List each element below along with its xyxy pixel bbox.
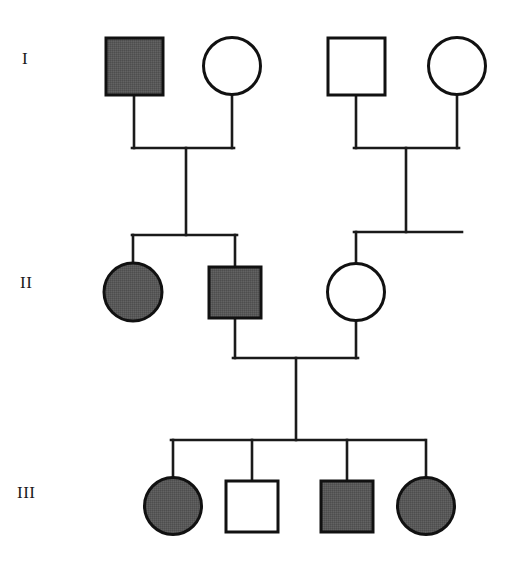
individual-symbol-I-1-affected-male[interactable] [106, 38, 163, 95]
pedigree-diagram-canvas [0, 0, 506, 564]
individual-symbol-II-2-affected-male[interactable] [209, 267, 261, 318]
individual-symbol-III-3-affected-male[interactable] [321, 481, 373, 532]
pedigree-chart: I II III [0, 0, 506, 564]
individual-symbol-III-1-affected-female[interactable] [145, 478, 202, 535]
individual-symbol-II-1-affected-female[interactable] [104, 263, 162, 321]
connector-lines-group [132, 95, 462, 481]
individual-symbol-I-2-unaffected-female[interactable] [204, 38, 261, 95]
generation-label-II: II [20, 274, 32, 291]
individual-symbol-II-3-unaffected-female[interactable] [328, 264, 385, 321]
individual-symbol-III-2-unaffected-male[interactable] [226, 481, 278, 532]
generation-label-III: III [17, 484, 35, 501]
individual-symbol-III-4-affected-female[interactable] [398, 478, 455, 535]
generation-label-I: I [22, 50, 28, 67]
individual-symbol-I-3-unaffected-male[interactable] [328, 38, 385, 95]
individual-symbols-group [104, 38, 486, 535]
individual-symbol-I-4-unaffected-female[interactable] [429, 38, 486, 95]
